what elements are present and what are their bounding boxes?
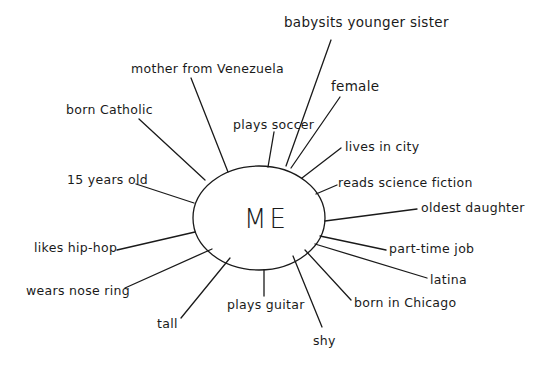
spoke-label: 15 years old <box>67 174 148 187</box>
center-label: ME <box>244 204 289 234</box>
spoke-label: female <box>331 80 379 94</box>
spoke-label: lives in city <box>345 141 419 154</box>
spoke-label: part-time job <box>389 243 474 256</box>
spoke-label: oldest daughter <box>421 202 525 215</box>
spoke-label: plays soccer <box>233 119 314 132</box>
spoke-label: born in Chicago <box>354 297 457 310</box>
spoke-label: born Catholic <box>66 104 153 117</box>
spoke-label: plays guitar <box>227 299 305 312</box>
spoke-label: reads science fiction <box>338 177 473 190</box>
spoke-label: mother from Venezuela <box>131 63 284 76</box>
spoke-label: shy <box>313 335 336 348</box>
spoke-label: wears nose ring <box>26 285 130 298</box>
spoke-label: likes hip-hop <box>34 242 117 255</box>
identity-web-diagram: ME babysits younger sister mother from V… <box>0 0 553 365</box>
spoke-label: babysits younger sister <box>284 16 449 30</box>
spoke-label: latina <box>430 274 467 287</box>
spoke-label: tall <box>157 318 178 331</box>
